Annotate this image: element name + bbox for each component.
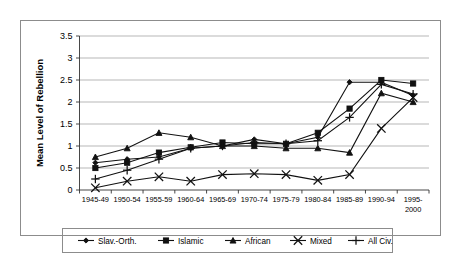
legend-item-label: African <box>245 237 271 246</box>
data-point-square-marker <box>125 160 130 165</box>
x-tick-label: 1965-69 <box>209 195 236 204</box>
y-tick-label: 2 <box>67 97 72 107</box>
y-tick-label: 0.5 <box>60 163 73 173</box>
x-tick-label: 1955-59 <box>145 195 172 204</box>
x-tick-label: 2000 <box>405 205 421 214</box>
y-tick-label: 1.5 <box>60 119 73 129</box>
data-point-square-marker <box>156 150 161 155</box>
legend-marker-square-icon <box>163 238 168 243</box>
x-tick-label: 1995- <box>404 195 423 204</box>
data-point-square-marker <box>93 165 98 170</box>
y-axis-title: Mean Level of Rebellion <box>34 59 45 167</box>
x-tick-label: 1985-89 <box>336 195 363 204</box>
x-tick-label: 1980-84 <box>304 195 331 204</box>
x-tick-label: 1960-64 <box>177 195 204 204</box>
y-tick-label: 3 <box>67 53 72 63</box>
legend-item-label: Islamic <box>178 237 203 246</box>
x-tick-label: 1950-54 <box>114 195 141 204</box>
data-point-square-marker <box>315 130 320 135</box>
legend-item-label: Slav.-Orth. <box>98 237 137 246</box>
y-tick-label: 3.5 <box>60 31 73 41</box>
y-tick-label: 0 <box>67 185 72 195</box>
rebellion-line-chart: 00.511.522.533.5 1945-491950-541955-5919… <box>0 0 462 266</box>
x-tick-label: 1970-74 <box>241 195 268 204</box>
legend-item-label: Mixed <box>310 237 332 246</box>
x-tick-label: 1945-49 <box>82 195 109 204</box>
x-tick-label: 1975-79 <box>272 195 299 204</box>
data-point-square-marker <box>347 106 352 111</box>
x-tick-label: 1990-94 <box>368 195 395 204</box>
legend-item-label: All Civ. <box>368 237 393 246</box>
y-tick-label: 2.5 <box>60 75 73 85</box>
y-tick-label: 1 <box>67 141 72 151</box>
data-point-square-marker <box>411 81 416 86</box>
